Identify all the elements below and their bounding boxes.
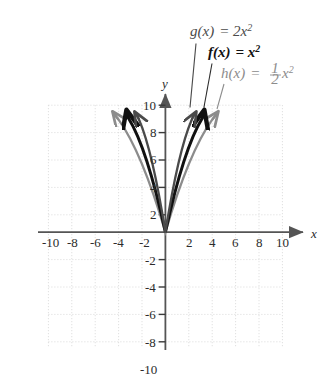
graph-figure: -10 -8 -6 -4 -2 2 4 6 8 10 10 8 6 4 2 -2…: [0, 0, 327, 376]
label-f-fn: f(x): [208, 44, 231, 61]
label-f: f(x)= x2: [208, 43, 260, 61]
label-g: g(x)= 2x2: [190, 22, 252, 40]
svg-text:g(x)= 2x2: g(x)= 2x2: [190, 22, 252, 40]
label-h: h(x)= 1 2 x2: [221, 60, 294, 87]
y-tick-label: -10: [140, 362, 157, 376]
x-tick-label: -6: [90, 235, 101, 250]
label-g-fn: g(x): [190, 23, 214, 40]
x-axis-label: x: [310, 226, 317, 241]
x-tick-label: -8: [67, 235, 78, 250]
svg-text:f(x)= x2: f(x)= x2: [208, 43, 260, 61]
y-tick-label: -6: [145, 307, 156, 322]
y-tick-label: 10: [143, 98, 156, 113]
y-tick-label: -2: [145, 253, 156, 268]
label-h-denominator: 2: [271, 71, 279, 87]
x-tick-label: 2: [186, 235, 193, 250]
x-tick-label: -2: [139, 235, 150, 250]
axes: [38, 94, 303, 350]
x-tick-label: -4: [113, 235, 124, 250]
y-tick-label: 8: [150, 125, 157, 140]
label-h-exp: 2: [289, 64, 294, 75]
label-h-fn: h(x): [221, 65, 245, 82]
x-tick-label: -10: [42, 235, 59, 250]
graph-svg: -10 -8 -6 -4 -2 2 4 6 8 10 10 8 6 4 2 -2…: [0, 0, 327, 376]
label-g-exp: 2: [247, 22, 252, 33]
label-g-eq: = 2x: [219, 23, 247, 39]
label-f-eq: = x: [236, 44, 256, 60]
y-tick-label: 6: [150, 152, 157, 167]
y-tick-label: 4: [150, 180, 157, 195]
label-f-exp: 2: [254, 43, 260, 54]
y-tick-label: -8: [145, 335, 156, 350]
leader-line-f: [204, 64, 212, 108]
y-axis-label: y: [160, 76, 168, 91]
x-tick-label: 10: [276, 235, 289, 250]
x-tick-label: 4: [209, 235, 216, 250]
x-tick-label: 6: [232, 235, 239, 250]
y-tick-label: 2: [150, 207, 157, 222]
leader-line-g: [190, 44, 196, 108]
x-tick-label: 8: [256, 235, 263, 250]
svg-text:h(x)=: h(x)=: [221, 65, 260, 82]
svg-text:x2: x2: [281, 64, 294, 81]
y-tick-label: -4: [145, 280, 156, 295]
label-h-eq: =: [250, 65, 260, 81]
